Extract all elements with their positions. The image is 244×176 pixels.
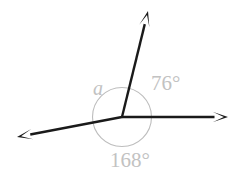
ray-up-right bbox=[122, 11, 149, 117]
angle-label-76: 76° bbox=[151, 71, 180, 95]
ray-right bbox=[122, 112, 228, 122]
ray-up-right-line bbox=[122, 24, 145, 117]
ray-right-arrow-icon bbox=[213, 112, 229, 122]
angle-label-168: 168° bbox=[110, 148, 150, 172]
ray-left-down bbox=[17, 117, 122, 139]
ray-left-down-line bbox=[30, 117, 122, 134]
angle-diagram-svg: a 76° 168° bbox=[0, 0, 244, 176]
angle-diagram-canvas: a 76° 168° bbox=[0, 0, 244, 176]
angle-label-a: a bbox=[93, 77, 103, 99]
